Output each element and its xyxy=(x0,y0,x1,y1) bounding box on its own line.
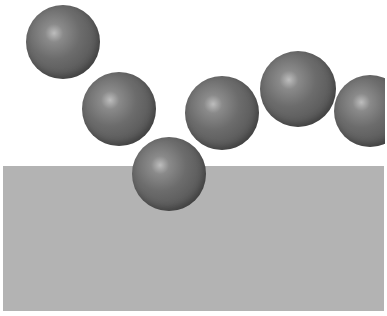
sphere-3-touching-slab xyxy=(132,137,206,211)
sphere-2 xyxy=(82,72,156,146)
sphere-5 xyxy=(260,51,336,127)
sphere-1 xyxy=(26,5,100,79)
sphere-4 xyxy=(185,76,259,150)
sphere-layer xyxy=(0,0,385,316)
sphere-6 xyxy=(334,75,385,147)
